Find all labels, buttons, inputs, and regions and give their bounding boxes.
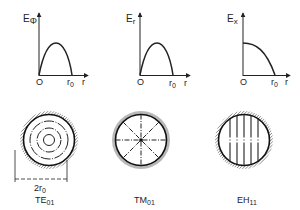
mode-label: TM01 [134, 195, 155, 206]
r0-label: r0 [169, 78, 176, 89]
waveguide-mode-diagram: EΦ O r0 r Er O r0 r Ex O r0 r 2r0 TE01 [0, 0, 300, 210]
diameter-label: 2r0 [34, 183, 46, 194]
x-axis-label: r [184, 78, 187, 88]
mode-tm01-cross-section: TM01 [112, 111, 170, 206]
origin-label: O [36, 77, 43, 87]
mode-eh11-cross-section: EH11 [215, 111, 273, 206]
center-dot [139, 138, 143, 142]
mode-label: EH11 [237, 195, 257, 206]
plot-te01: EΦ O r0 r [23, 13, 88, 88]
field-curve [39, 43, 72, 75]
r0-label: r0 [271, 77, 278, 88]
mode-label: TE01 [35, 195, 54, 206]
r0-label: r0 [67, 77, 74, 88]
mode-te01-cross-section: 2r0 TE01 [15, 111, 78, 206]
field-curve [140, 43, 173, 75]
plot-tm01: Er O r0 r [126, 13, 190, 89]
field-curve [243, 43, 275, 75]
y-axis-label: Ex [227, 13, 238, 26]
origin-label: O [137, 77, 144, 87]
origin-label: O [240, 77, 247, 87]
x-axis-label: r [285, 77, 288, 87]
plot-eh11: Ex O r0 r [227, 13, 290, 88]
y-axis-label: EΦ [23, 13, 37, 26]
y-axis-label: Er [126, 13, 136, 26]
x-axis-label: r [82, 77, 85, 87]
